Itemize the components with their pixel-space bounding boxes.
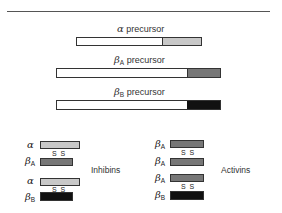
activin-chain-label: βA	[155, 155, 165, 167]
disulfide-bond: S S	[52, 150, 66, 157]
inhibin-alpha-subunit	[40, 178, 80, 186]
inhibin-betaB-subunit	[40, 192, 73, 201]
inhibin-chain-label: βB	[25, 191, 35, 203]
alpha-mature-domain	[162, 38, 201, 45]
alpha-precursor-bar	[76, 37, 202, 46]
top-rule	[7, 11, 270, 12]
inhibin-alpha-subunit	[40, 141, 80, 149]
betaA-precursor-label: βA precursor	[114, 54, 165, 66]
betaA-prodomain	[57, 69, 187, 77]
alpha-symbol: α	[117, 23, 124, 34]
inhibin-betaA-subunit	[40, 158, 73, 166]
activin-betaB-subunit	[170, 191, 204, 200]
betaB-precursor-bar	[56, 100, 221, 110]
alpha-prodomain	[77, 38, 162, 45]
activin-chain-label: βA	[155, 138, 165, 150]
activins-label: Activins	[221, 165, 250, 175]
alpha-precursor-label: α precursor	[117, 23, 164, 34]
betaA-mature-domain	[187, 69, 220, 77]
inhibins-label: Inhibins	[91, 165, 120, 175]
activin-betaA-subunit	[170, 158, 204, 166]
disulfide-bond: S S	[181, 149, 195, 156]
betaA-precursor-bar	[56, 68, 221, 78]
activin-betaA-subunit	[170, 174, 204, 182]
disulfide-bond: S S	[181, 183, 195, 190]
inhibin-chain-label: α	[27, 175, 34, 187]
activin-betaA-subunit	[170, 140, 204, 148]
activin-chain-label: βA	[155, 172, 165, 184]
activin-chain-label: βB	[155, 189, 165, 201]
inhibin-chain-label: α	[27, 139, 34, 151]
inhibin-chain-label: βA	[25, 155, 35, 167]
betaB-precursor-label: βB precursor	[114, 86, 165, 98]
betaB-prodomain	[57, 101, 187, 109]
betaB-mature-domain	[187, 101, 220, 109]
